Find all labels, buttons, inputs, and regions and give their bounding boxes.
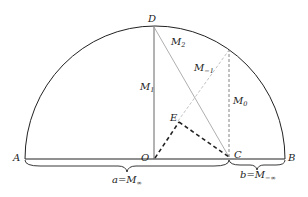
label-point-O: O [141, 153, 149, 163]
label-M0: M0 [233, 96, 247, 108]
segment-OE-dashed [155, 122, 179, 158]
segment-EC-dashed [179, 122, 229, 157]
label-M2-base: M [171, 36, 181, 47]
label-point-E: E [170, 113, 177, 123]
label-M2-sub: 2 [181, 41, 185, 49]
label-M1-sub: 1 [150, 86, 154, 94]
label-M0-base: M [233, 95, 243, 106]
label-a-sub: ∞ [137, 179, 142, 187]
label-point-C: C [234, 150, 242, 160]
label-a-prefix: a= [112, 174, 126, 185]
label-point-B: B [288, 153, 295, 163]
label-point-D: D [148, 14, 156, 24]
label-M-1-base: M [194, 62, 204, 73]
label-M0-sub: 0 [243, 100, 247, 108]
label-M-1: M−1 [194, 63, 214, 75]
semicircle-means-diagram [0, 0, 308, 197]
label-point-A: A [13, 153, 20, 163]
semicircle-arc [25, 26, 285, 159]
label-a-base: M [126, 174, 136, 185]
brace-a [25, 160, 229, 172]
label-M1-base: M [140, 81, 150, 92]
label-a-equals-M-inf: a=M∞ [112, 175, 142, 187]
label-b-equals-M-neg-inf: b=M−∞ [240, 170, 276, 182]
label-M1: M1 [140, 82, 154, 94]
segment-DC [154, 27, 229, 157]
label-M2: M2 [171, 37, 185, 49]
label-b-sub: −∞ [265, 174, 276, 182]
segment-E-to-arc-dotted [178, 50, 229, 121]
label-M-1-sub: −1 [204, 67, 214, 75]
label-b-base: M [255, 169, 265, 180]
label-b-prefix: b= [240, 169, 255, 180]
